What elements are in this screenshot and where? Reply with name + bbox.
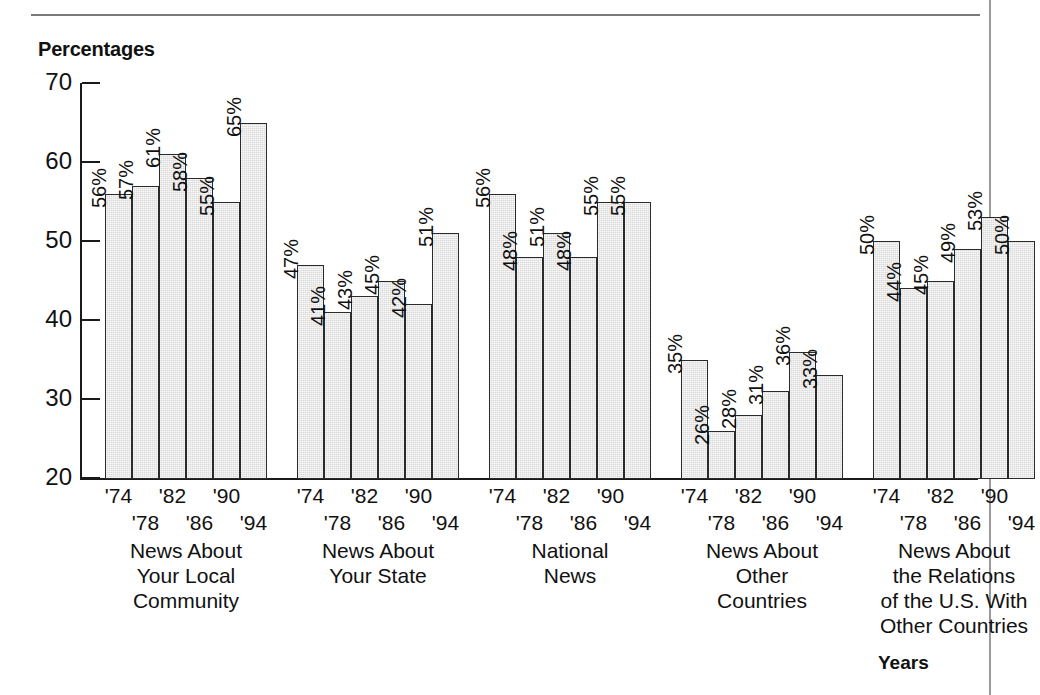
bar — [1008, 241, 1035, 479]
bar-value-label: 48% — [554, 231, 574, 271]
x-axis-title: Years — [878, 652, 929, 674]
x-axis-tick-label: '78 — [891, 512, 937, 533]
bar-value-label: 56% — [473, 168, 493, 208]
bar — [159, 154, 186, 479]
group-caption-line: News — [465, 563, 675, 588]
bar — [324, 312, 351, 479]
bar — [405, 304, 432, 479]
x-axis-tick-label: '86 — [177, 512, 223, 533]
group-caption-line: Countries — [657, 588, 867, 613]
y-axis-tick — [82, 398, 100, 400]
bar — [132, 186, 159, 479]
x-axis-tick-label: '78 — [699, 512, 745, 533]
group-caption-line: Other — [657, 563, 867, 588]
bar — [516, 257, 543, 479]
x-axis-tick-label: '94 — [807, 512, 853, 533]
group-caption-line: News About — [81, 538, 291, 563]
group-caption-line: Community — [81, 588, 291, 613]
bar — [816, 375, 843, 479]
x-axis-tick-label: '94 — [423, 512, 469, 533]
bar-value-label: 31% — [746, 365, 766, 405]
bar-value-label: 45% — [911, 254, 931, 294]
y-axis-tick-label: 20 — [16, 465, 72, 489]
x-axis-tick-label: '82 — [918, 485, 964, 506]
bar — [186, 178, 213, 479]
x-axis-tick-label: '74 — [96, 485, 142, 506]
bar — [597, 202, 624, 480]
bar-value-label: 28% — [719, 389, 739, 429]
bar — [240, 123, 267, 480]
y-axis-tick — [82, 477, 100, 479]
bar-group-caption: News AboutYour State — [273, 538, 483, 588]
bar-value-label: 50% — [992, 215, 1012, 255]
x-axis-tick-label: '90 — [588, 485, 634, 506]
x-axis-tick-label: '86 — [561, 512, 607, 533]
group-caption-line: News About — [657, 538, 867, 563]
bar-value-label: 35% — [665, 333, 685, 373]
y-axis-line — [80, 83, 82, 480]
bar-group-caption: News AboutOtherCountries — [657, 538, 867, 613]
group-caption-line: National — [465, 538, 675, 563]
bar-group-caption: NationalNews — [465, 538, 675, 588]
y-axis-tick-label: 60 — [16, 149, 72, 173]
bar-value-label: 51% — [416, 207, 436, 247]
y-axis-tick — [82, 240, 100, 242]
bar — [954, 249, 981, 479]
bar-value-label: 61% — [143, 128, 163, 168]
group-caption-line: the Relations — [849, 563, 1040, 588]
bar-value-label: 41% — [308, 286, 328, 326]
bar-value-label: 50% — [857, 215, 877, 255]
group-caption-line: News About — [849, 538, 1040, 563]
bar-value-label: 56% — [89, 168, 109, 208]
x-axis-tick-label: '78 — [123, 512, 169, 533]
x-axis-tick-label: '74 — [672, 485, 718, 506]
y-axis-tick — [82, 319, 100, 321]
x-axis-tick-label: '82 — [342, 485, 388, 506]
bar-value-label: 53% — [965, 191, 985, 231]
x-axis-tick-label: '74 — [864, 485, 910, 506]
bar — [570, 257, 597, 479]
x-axis-tick-label: '86 — [369, 512, 415, 533]
bar — [624, 202, 651, 480]
x-axis-tick-label: '86 — [945, 512, 991, 533]
group-caption-line: Your Local — [81, 563, 291, 588]
x-axis-tick-label: '78 — [315, 512, 361, 533]
x-axis-tick-label: '90 — [780, 485, 826, 506]
bar — [981, 217, 1008, 479]
bar-value-label: 45% — [362, 254, 382, 294]
bar-value-label: 65% — [224, 96, 244, 136]
bar-value-label: 36% — [773, 326, 793, 366]
x-axis-tick-label: '90 — [396, 485, 442, 506]
bar-value-label: 57% — [116, 160, 136, 200]
group-caption-line: Your State — [273, 563, 483, 588]
x-axis-tick-label: '74 — [480, 485, 526, 506]
x-axis-tick-label: '94 — [999, 512, 1040, 533]
bar-value-label: 49% — [938, 223, 958, 263]
bar-value-label: 26% — [692, 405, 712, 445]
group-caption-line: of the U.S. With — [849, 588, 1040, 613]
bar-group-caption: News Aboutthe Relationsof the U.S. WithO… — [849, 538, 1040, 638]
x-axis-tick-label: '82 — [534, 485, 580, 506]
bar-value-label: 44% — [884, 262, 904, 302]
x-axis-tick-label: '74 — [288, 485, 334, 506]
bar-value-label: 58% — [170, 152, 190, 192]
bar — [105, 194, 132, 479]
bar-value-label: 55% — [581, 175, 601, 215]
bar-value-label: 48% — [500, 231, 520, 271]
bar-value-label: 33% — [800, 349, 820, 389]
y-axis-tick — [82, 161, 100, 163]
x-axis-tick-label: '86 — [753, 512, 799, 533]
x-axis-tick-label: '94 — [615, 512, 661, 533]
group-caption-line: Other Countries — [849, 613, 1040, 638]
bar-value-label: 55% — [197, 175, 217, 215]
y-axis-tick-label: 30 — [16, 386, 72, 410]
bar-group-caption: News AboutYour LocalCommunity — [81, 538, 291, 613]
bar-value-label: 47% — [281, 239, 301, 279]
bar — [213, 202, 240, 480]
bar-value-label: 51% — [527, 207, 547, 247]
x-axis-tick-label: '82 — [726, 485, 772, 506]
y-axis-tick-label: 70 — [16, 70, 72, 94]
x-axis-tick-label: '90 — [972, 485, 1018, 506]
group-caption-line: News About — [273, 538, 483, 563]
